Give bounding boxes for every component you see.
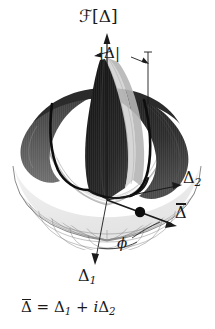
phi-angle-label: ϕ: [117, 236, 127, 251]
equation-lhs: Δ: [21, 298, 32, 316]
mexican-hat-figure: ℱ[Δ] |Δ| Δ2 Δ ϕ Δ1 Δ = Δ1 + iΔ2: [0, 0, 215, 329]
axis-delta2-subscript: 2: [195, 176, 202, 189]
axis-delta-bar-label: Δ: [175, 205, 187, 221]
axis-delta1-label: Δ1: [78, 268, 96, 287]
axis-delta1-subscript: 1: [90, 274, 97, 287]
overbar-lhs: [22, 299, 32, 300]
equation-term2: Δ: [98, 298, 109, 316]
amplitude-label: |Δ|: [99, 46, 120, 61]
axis-delta-bar-glyph: Δ: [175, 203, 187, 222]
ground-state-marker: [135, 207, 145, 217]
caption-equation: Δ = Δ1 + iΔ2: [21, 300, 116, 317]
axis-delta1-glyph: Δ: [78, 266, 90, 285]
axis-delta2-label: Δ2: [183, 170, 201, 189]
equation-term2-subscript: 2: [109, 306, 115, 317]
axis-delta2-glyph: Δ: [183, 168, 195, 187]
equation-term1: Δ: [54, 298, 65, 316]
overbar: [176, 203, 186, 204]
equation-equals: =: [32, 298, 54, 316]
vertical-axis-label: ℱ[Δ]: [79, 8, 118, 25]
equation-plus: +: [71, 298, 93, 316]
